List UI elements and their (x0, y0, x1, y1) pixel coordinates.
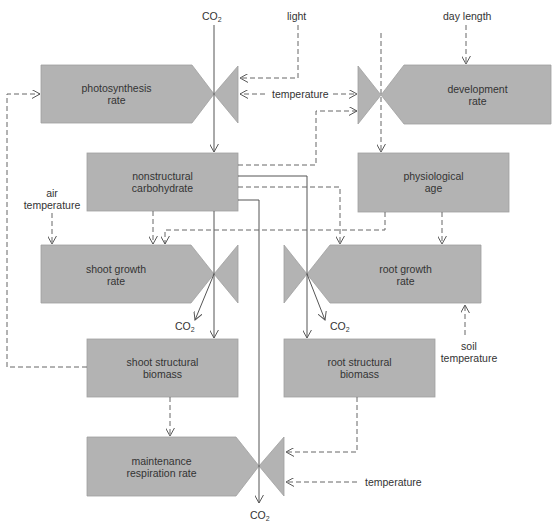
soil-temperature-line1: soil (440, 340, 498, 352)
temperature-bottom-label: temperature (365, 476, 422, 488)
maintenance-respiration-label: maintenance respiration rate (87, 455, 236, 479)
photosynthesis-label-line1: photosynthesis (41, 82, 192, 94)
day-length-label: day length (443, 10, 491, 22)
co2-shoot-output-label: CO2 (175, 320, 195, 336)
development-label-line2: rate (404, 95, 551, 107)
root-structural-label-line1: root structural (284, 356, 435, 368)
root-growth-label-line2: rate (330, 275, 481, 287)
nonstructural-carbohydrate-label: nonstructural carbohydrate (87, 170, 238, 194)
root-biomass-to-maintenance-link (286, 397, 357, 452)
soil-temperature-line2: temperature (440, 352, 498, 364)
physiological-age-label: physiological age (358, 170, 509, 194)
air-temperature-line1: air (22, 187, 82, 199)
photosynthesis-label-line2: rate (41, 94, 192, 106)
root-growth-rate-label: root growth rate (330, 263, 481, 287)
light-label: light (287, 10, 306, 22)
maintenance-label-line2: respiration rate (87, 467, 236, 479)
shoot-growth-label-line1: shoot growth (41, 263, 191, 275)
physiological-to-shoot-growth-link (165, 212, 385, 244)
development-valve-icon (358, 66, 381, 124)
nonstructural-label-line2: carbohydrate (87, 182, 238, 194)
development-label-line1: development (404, 83, 551, 95)
shoot-growth-rate-label: shoot growth rate (41, 263, 191, 287)
nonstructural-to-development-link (238, 111, 357, 165)
root-growth-valve-icon (284, 245, 307, 303)
root-structural-label-line2: biomass (284, 368, 435, 380)
soil-temperature-label: soil temperature (440, 340, 498, 364)
co2-bottom-output-label: CO2 (250, 509, 270, 525)
light-link (240, 25, 298, 78)
co2-input-label: CO2 (202, 10, 222, 26)
photosynthesis-valve-icon (214, 66, 238, 123)
shoot-structural-label-line2: biomass (87, 368, 238, 380)
maintenance-label-line1: maintenance (87, 455, 236, 467)
nonstructural-to-root-growth-link (238, 187, 340, 244)
photosynthesis-rate-label: photosynthesis rate (41, 82, 192, 106)
air-temperature-line2: temperature (22, 199, 82, 211)
physiological-label-line2: age (358, 182, 509, 194)
maintenance-valve-icon (259, 437, 284, 496)
shoot-structural-label-line1: shoot structural (87, 356, 238, 368)
temperature-top-label: temperature (272, 88, 329, 100)
shoot-growth-valve-icon (214, 245, 238, 303)
nonstructural-label-line1: nonstructural (87, 170, 238, 182)
air-temperature-label: air temperature (22, 187, 82, 211)
physiological-label-line1: physiological (358, 170, 509, 182)
root-structural-biomass-label: root structural biomass (284, 356, 435, 380)
co2-root-output-label: CO2 (330, 320, 350, 336)
shoot-growth-label-line2: rate (41, 275, 191, 287)
shoot-structural-biomass-label: shoot structural biomass (87, 356, 238, 380)
shoot-biomass-to-photosynthesis-link (7, 94, 87, 367)
development-rate-label: development rate (404, 83, 551, 107)
root-growth-label-line1: root growth (330, 263, 481, 275)
